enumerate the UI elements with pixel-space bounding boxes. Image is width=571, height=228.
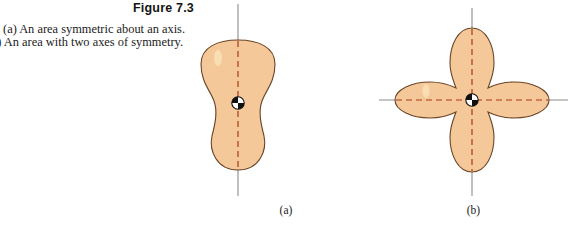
figure-illustration-area: (a) (b) [0,0,571,228]
figure-panel-a: (a) [196,0,376,228]
diagram-four-petal-area [376,0,571,204]
shape-highlight [423,84,430,98]
panel-label-b: (b) [376,204,571,216]
figure-panel-b: (b) [376,0,571,228]
panel-label-a: (a) [196,204,376,216]
centroid-marker [466,94,478,106]
shape-highlight [214,50,222,66]
centroid-marker [232,97,244,109]
diagram-peanut-shaped-area [196,0,376,204]
